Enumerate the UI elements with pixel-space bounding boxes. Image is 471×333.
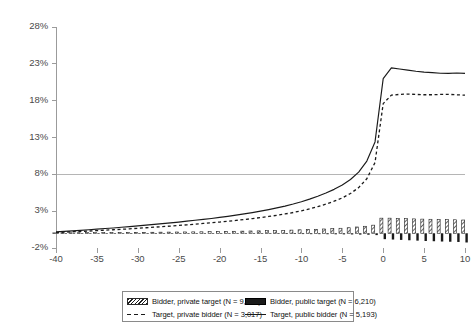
bar bbox=[404, 219, 407, 234]
chart-container: -2%3%8%13%18%23%28% -40-35-30-25-20-15-1… bbox=[0, 0, 471, 333]
bar bbox=[118, 232, 121, 233]
bar bbox=[257, 231, 260, 233]
y-tick-label: 23% bbox=[4, 57, 48, 68]
bar bbox=[269, 233, 271, 234]
line-target-public-bidder bbox=[56, 68, 465, 232]
bar bbox=[85, 233, 88, 234]
bar bbox=[290, 230, 293, 233]
legend-item-target-private-bidder[interactable]: Target, private bidder (N = 3,017) bbox=[127, 310, 245, 319]
bar bbox=[236, 233, 238, 234]
bar bbox=[97, 233, 99, 234]
bar bbox=[359, 233, 361, 234]
bar bbox=[184, 232, 187, 233]
bar bbox=[364, 226, 367, 233]
bar bbox=[171, 233, 173, 234]
x-tick-label: 5 bbox=[422, 253, 427, 264]
bar bbox=[454, 220, 457, 233]
bar bbox=[114, 233, 116, 234]
bar bbox=[77, 233, 80, 234]
legend-item-target-public-bidder[interactable]: Target, public bidder (N = 5,193) bbox=[245, 310, 377, 319]
series-line bbox=[56, 68, 465, 232]
hatched-bar-swatch-icon bbox=[127, 298, 148, 305]
bar bbox=[216, 232, 219, 234]
bar bbox=[208, 232, 211, 234]
bar bbox=[343, 233, 345, 234]
bar bbox=[421, 219, 424, 233]
legend-item-bidder-public-target[interactable]: Bidder, public target (N = 6,210) bbox=[245, 297, 376, 306]
y-tick-label: 18% bbox=[4, 94, 48, 105]
bar bbox=[253, 233, 255, 234]
x-tick-label: -10 bbox=[295, 253, 308, 264]
bar bbox=[413, 219, 416, 233]
plot-area: -2%3%8%13%18%23%28% -40-35-30-25-20-15-1… bbox=[56, 27, 465, 248]
x-tick-label: -30 bbox=[131, 253, 144, 264]
y-tick-label: 8% bbox=[4, 167, 48, 178]
x-tick-label: 0 bbox=[381, 253, 386, 264]
bar bbox=[192, 232, 195, 233]
bar bbox=[138, 233, 140, 234]
bar bbox=[179, 233, 181, 234]
bar bbox=[277, 233, 279, 234]
bar bbox=[175, 232, 178, 233]
y-tick-label: -2% bbox=[4, 241, 48, 252]
legend-label: Bidder, public target (N = 6,210) bbox=[270, 297, 376, 306]
bar bbox=[388, 218, 391, 233]
bar bbox=[167, 232, 170, 233]
solid-bar-swatch-icon bbox=[245, 298, 266, 305]
bar bbox=[380, 218, 383, 233]
bar bbox=[122, 233, 124, 234]
x-tick-label: -25 bbox=[172, 253, 185, 264]
bar bbox=[400, 233, 402, 240]
bar bbox=[228, 233, 230, 234]
bar bbox=[425, 233, 427, 241]
bar bbox=[433, 233, 435, 241]
y-tick-label: 3% bbox=[4, 204, 48, 215]
bar bbox=[155, 233, 157, 234]
bar bbox=[326, 233, 328, 234]
bar bbox=[224, 231, 227, 233]
bar bbox=[339, 228, 342, 233]
bar bbox=[318, 233, 320, 234]
bar bbox=[282, 230, 285, 233]
x-tick-label: -20 bbox=[213, 253, 226, 264]
bars-bidder-private-target bbox=[53, 218, 465, 233]
bar bbox=[462, 220, 465, 233]
bar bbox=[204, 233, 206, 234]
bar bbox=[392, 233, 394, 239]
bar bbox=[61, 233, 64, 234]
bar bbox=[102, 233, 105, 234]
bar bbox=[396, 219, 399, 234]
bar bbox=[302, 233, 304, 234]
bar bbox=[249, 231, 252, 233]
bar bbox=[465, 233, 467, 242]
bar bbox=[163, 233, 165, 234]
bar bbox=[384, 233, 386, 239]
bar bbox=[135, 232, 138, 233]
bar bbox=[56, 233, 58, 234]
bar bbox=[274, 231, 277, 234]
x-tick-label: 10 bbox=[460, 253, 470, 264]
bar bbox=[265, 231, 268, 234]
series-line bbox=[56, 94, 465, 232]
solid-line-swatch-icon bbox=[245, 311, 266, 318]
bar bbox=[81, 233, 83, 234]
chart-legend: Bidder, private target (N = 9,480) Bidde… bbox=[122, 291, 354, 322]
series-graphics bbox=[56, 27, 465, 248]
bar bbox=[65, 233, 67, 234]
dashed-line-swatch-icon bbox=[127, 311, 148, 318]
legend-row-2: Target, private bidder (N = 3,017) Targe… bbox=[127, 308, 349, 321]
x-tick-label: -15 bbox=[254, 253, 267, 264]
bar bbox=[437, 219, 440, 233]
bar bbox=[351, 233, 353, 234]
legend-label: Target, public bidder (N = 5,193) bbox=[270, 310, 377, 319]
bar bbox=[335, 233, 337, 234]
bar bbox=[298, 230, 301, 233]
legend-item-bidder-private-target[interactable]: Bidder, private target (N = 9,480) bbox=[127, 297, 245, 306]
bar bbox=[347, 228, 350, 234]
x-tick-label: -5 bbox=[338, 253, 346, 264]
bar bbox=[323, 229, 326, 233]
bar bbox=[220, 233, 222, 234]
bar bbox=[457, 233, 459, 242]
bar bbox=[200, 232, 203, 233]
bar bbox=[261, 233, 263, 234]
